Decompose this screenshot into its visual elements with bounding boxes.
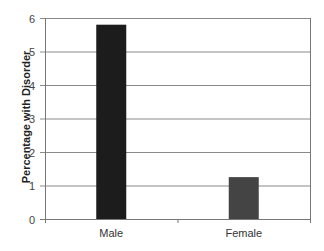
y-tick-label: 5 <box>29 46 35 58</box>
bar-female <box>229 177 259 219</box>
y-tick-label: 0 <box>29 214 35 226</box>
y-tick-label: 6 <box>29 13 35 25</box>
bar-male <box>96 25 126 219</box>
chart-plot: 0123456MaleFemale <box>0 0 324 251</box>
y-tick-label: 1 <box>29 180 35 192</box>
x-tick-label: Male <box>99 227 123 239</box>
x-tick-label: Female <box>225 227 262 239</box>
y-tick-label: 2 <box>29 147 35 159</box>
y-tick-label: 4 <box>29 80 35 92</box>
y-tick-label: 3 <box>29 113 35 125</box>
